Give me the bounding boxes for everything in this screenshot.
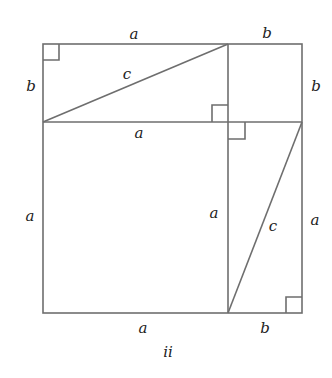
right-angle-marker-top-left [43, 44, 59, 60]
pythagorean-square-diagram [0, 0, 332, 378]
right-angle-marker-mid-upper [212, 105, 228, 122]
label-right-a: a [311, 213, 320, 228]
hypotenuse-right [228, 122, 302, 313]
label-mid-a: a [135, 126, 144, 141]
outer-square [43, 44, 302, 313]
label-top-b: b [262, 26, 272, 41]
label-hypotenuse-top-c: c [123, 67, 131, 82]
label-right-b: b [311, 79, 321, 94]
label-bottom-b: b [260, 321, 270, 336]
label-bottom-a: a [139, 321, 148, 336]
label-left-b: b [26, 79, 36, 94]
hypotenuse-top [43, 44, 228, 122]
label-inner-a: a [210, 206, 219, 221]
right-angle-marker-mid-lower [228, 122, 245, 139]
right-angle-marker-bottom-right [286, 297, 302, 313]
label-top-a: a [130, 27, 139, 42]
label-hypotenuse-right-c: c [269, 219, 277, 234]
label-left-a: a [26, 209, 35, 224]
figure-caption: ii [163, 345, 173, 360]
